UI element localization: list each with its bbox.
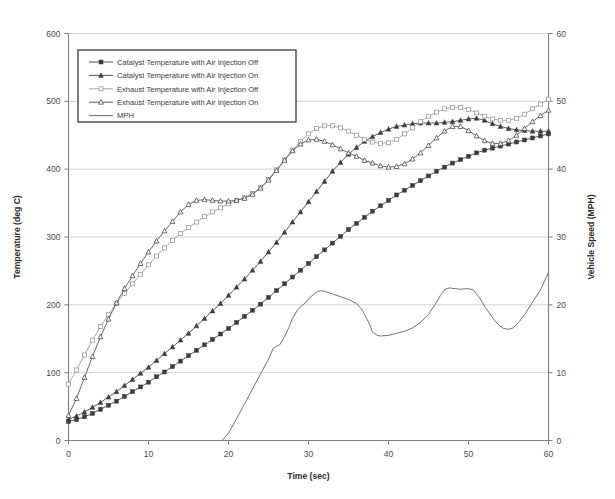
data-point — [283, 282, 287, 286]
legend-swatch-marker — [99, 87, 103, 91]
y2-tick-label: 50 — [557, 96, 567, 106]
data-point — [211, 210, 215, 214]
data-point — [155, 375, 159, 379]
data-point — [499, 118, 503, 122]
data-point — [275, 289, 279, 293]
data-point — [139, 385, 143, 389]
data-point — [371, 140, 375, 144]
y-tick-label: 100 — [46, 368, 60, 378]
x-tick-label: 30 — [304, 449, 314, 459]
data-point — [291, 275, 295, 279]
data-point — [523, 112, 527, 116]
data-point — [491, 117, 495, 121]
data-point — [219, 206, 223, 210]
y2-tick-label: 30 — [557, 232, 567, 242]
data-point — [395, 137, 399, 141]
legend-label: Catalyst Temperature with Air Injection … — [117, 58, 259, 67]
data-point — [539, 102, 543, 106]
data-point — [114, 389, 119, 394]
data-point — [474, 133, 479, 138]
data-point — [155, 254, 159, 258]
data-point — [147, 380, 151, 384]
y-tick-label: 300 — [46, 232, 60, 242]
legend-label: MPH — [117, 111, 134, 120]
data-point — [331, 241, 335, 245]
data-point — [435, 110, 439, 114]
data-point — [515, 116, 519, 120]
series-0 — [67, 132, 551, 424]
data-point — [99, 325, 103, 329]
data-point — [115, 399, 119, 403]
data-point — [98, 400, 103, 405]
data-point — [315, 255, 319, 259]
data-point — [331, 124, 335, 128]
data-point — [483, 114, 487, 118]
y2-tick-label: 60 — [557, 29, 567, 39]
data-point — [323, 124, 327, 128]
data-point — [163, 246, 167, 250]
data-point — [91, 338, 95, 342]
data-point — [315, 126, 319, 130]
data-point — [130, 377, 135, 382]
data-point — [83, 415, 87, 419]
data-point — [482, 138, 487, 143]
data-point — [531, 107, 535, 111]
data-point — [546, 108, 551, 113]
line-chart: 0100200300400500600010203040506001020304… — [0, 0, 615, 499]
series-line — [222, 272, 548, 440]
data-point — [179, 232, 183, 236]
data-point — [163, 370, 167, 374]
data-point — [202, 197, 207, 202]
data-point — [467, 107, 471, 111]
y2-axis-title: Vehicle Speed (MPH) — [586, 194, 596, 279]
data-point — [179, 359, 183, 363]
chart-legend: Catalyst Temperature with Air Injection … — [78, 50, 296, 122]
data-point — [475, 151, 479, 155]
y-tick-label: 500 — [46, 96, 60, 106]
data-point — [467, 154, 471, 158]
x-tick-label: 40 — [384, 449, 394, 459]
data-point — [451, 105, 455, 109]
data-point — [443, 107, 447, 111]
y2-tick-label: 20 — [557, 300, 567, 310]
y-tick-label: 600 — [46, 29, 60, 39]
data-point — [371, 209, 375, 213]
data-point — [91, 411, 95, 415]
data-point — [243, 314, 247, 318]
data-point — [419, 179, 423, 183]
y-tick-label: 0 — [56, 436, 61, 446]
x-tick-label: 20 — [224, 449, 234, 459]
data-point — [139, 272, 143, 276]
data-point — [459, 158, 463, 162]
data-point — [267, 295, 271, 299]
x-tick-label: 0 — [66, 449, 71, 459]
data-point — [442, 129, 447, 134]
data-point — [98, 334, 103, 339]
x-axis-title: Time (sec) — [287, 471, 329, 481]
data-point — [539, 134, 543, 138]
data-point — [235, 320, 239, 324]
legend-label: Catalyst Temperature with Air Injection … — [117, 71, 258, 80]
data-point — [411, 126, 415, 130]
data-point — [90, 405, 95, 410]
data-point — [475, 111, 479, 115]
data-point — [107, 403, 111, 407]
data-point — [370, 134, 375, 139]
data-point — [259, 302, 263, 306]
data-point — [402, 161, 407, 166]
data-point — [203, 215, 207, 219]
data-point — [395, 193, 399, 197]
data-point — [339, 126, 343, 130]
data-point — [195, 220, 199, 224]
data-point — [474, 116, 479, 121]
data-point — [219, 332, 223, 336]
data-point — [547, 97, 551, 101]
data-point — [66, 413, 71, 418]
series-1 — [66, 116, 551, 422]
data-point — [307, 261, 311, 265]
data-point — [82, 375, 87, 380]
legend-label: Exhaust Temperature with Air Injection O… — [117, 85, 259, 94]
data-point — [131, 390, 135, 394]
data-point — [506, 138, 511, 143]
data-point — [347, 129, 351, 133]
